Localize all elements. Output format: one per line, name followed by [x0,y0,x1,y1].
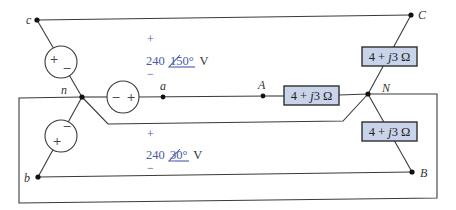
v150-unit: V [200,54,209,68]
svg-text:4 + j3 Ω: 4 + j3 Ω [369,50,411,64]
svg-text:4 + j3 Ω: 4 + j3 Ω [291,89,333,103]
source-b-minus: − [62,120,71,133]
node-B [409,169,414,174]
v30-unit: V [193,148,202,162]
zAN-real: 4 [291,89,298,103]
node-a [161,95,166,100]
zBN-real: 4 [369,125,376,139]
voltage-source-c: + − [45,46,77,78]
source-c-plus: + [49,53,58,66]
source-a-minus: − [111,91,120,104]
node-A [261,94,266,99]
v150-angle: 150° [170,54,194,68]
v150-plus: + [147,32,154,46]
label-A: A [257,78,266,92]
svg-text:4 + j3 Ω: 4 + j3 Ω [369,125,411,139]
v30-magnitude: 240 [146,148,165,162]
wire-zbox-to-N [339,94,368,95]
circuit-diagram: + − − + − + 4 + j3 Ω 4 + j3 Ω 4 + j3 [0,0,456,210]
node-N [365,91,370,96]
impedance-B-N: 4 + j3 Ω [362,122,417,141]
svg-text:240 150° V: 240 150° V [146,54,209,68]
label-N: N [381,81,391,95]
voltage-label-150: + 240 150° V − [146,32,209,81]
zBN-unit: Ω [401,125,410,139]
zCN-real: 4 [369,50,376,64]
label-c: c [26,13,32,27]
label-n: n [61,83,67,97]
source-a-plus: + [126,91,135,104]
wire-source-a-to-A [138,96,270,97]
voltage-label-30: + 240 30° V − [146,127,202,175]
wire-c-to-C [37,15,411,20]
v150-magnitude: 240 [146,54,165,68]
zCN-unit: Ω [401,50,410,64]
impedance-C-N: 4 + j3 Ω [362,47,417,66]
outer-return-loop [19,94,437,203]
label-C: C [418,8,427,22]
label-b: b [24,171,30,185]
node-n [79,94,84,99]
source-c-minus: − [62,62,71,75]
label-B: B [420,166,428,180]
zAN-unit: Ω [323,89,332,103]
wire-b-to-B [38,172,412,177]
voltage-source-b: − + [45,120,77,152]
node-b [35,174,40,179]
v30-plus: + [147,127,154,141]
impedance-A-N: 4 + j3 Ω [284,86,339,105]
v30-minus: − [147,161,154,175]
voltage-source-a: − + [107,81,139,113]
label-a: a [160,79,166,93]
node-c [34,17,39,22]
v150-minus: − [147,67,154,81]
node-C [408,12,413,17]
source-b-plus: + [52,135,61,148]
